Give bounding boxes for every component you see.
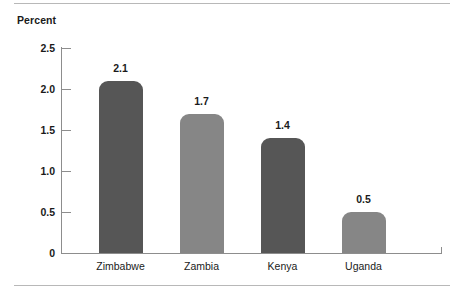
x-axis-line — [61, 253, 442, 254]
y-axis-tick-label: 0.5 — [15, 206, 55, 218]
bar — [99, 81, 143, 253]
y-axis-tick — [62, 89, 71, 90]
y-axis-tick-label: 0 — [15, 247, 55, 259]
plot-area: 00.51.01.52.02.5 2.11.71.40.5 ZimbabweZa… — [0, 0, 464, 296]
bar-value-label: 1.7 — [172, 95, 232, 107]
bar-value-label: 2.1 — [91, 62, 151, 74]
chart-figure: Percent 00.51.01.52.02.5 2.11.71.40.5 Zi… — [0, 0, 464, 296]
category-label: Uganda — [319, 260, 409, 272]
y-axis-tick — [62, 212, 71, 213]
x-axis-end-tick — [441, 247, 442, 254]
bar-value-label: 0.5 — [334, 193, 394, 205]
y-axis-tick-label: 2.0 — [15, 83, 55, 95]
y-axis-tick — [62, 48, 71, 49]
bar — [261, 138, 305, 253]
bar — [180, 114, 224, 253]
y-axis-tick-label: 1.0 — [15, 165, 55, 177]
bar-value-label: 1.4 — [253, 119, 313, 131]
y-axis-tick — [62, 171, 71, 172]
y-axis-line — [61, 47, 62, 254]
category-label: Zimbabwe — [76, 260, 166, 272]
category-label: Zambia — [157, 260, 247, 272]
category-label: Kenya — [238, 260, 328, 272]
y-axis-tick-label: 2.5 — [15, 42, 55, 54]
y-axis-tick-label: 1.5 — [15, 124, 55, 136]
y-axis-tick — [62, 130, 71, 131]
bar — [342, 212, 386, 253]
